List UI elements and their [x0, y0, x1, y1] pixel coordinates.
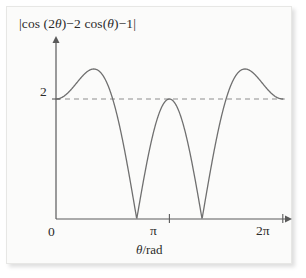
x-axis-label: θ/rad	[136, 243, 163, 256]
x-tick-label-pi: π	[150, 224, 157, 238]
x-tick-label-2pi: 2π	[256, 224, 270, 238]
y-axis-label-theta1: θ	[55, 16, 62, 31]
curve-path	[56, 69, 283, 218]
x-axis-label-unit: /rad	[142, 242, 162, 257]
y-axis-label: |cos (2θ)−2 cos(θ)−1|	[19, 17, 136, 31]
plot-area: |cos (2θ)−2 cos(θ)−1| 2 0 π 2π θ/rad	[0, 0, 306, 278]
y-axis-label-part3: )−1|	[114, 16, 136, 31]
y-axis-label-part2: )−2 cos(	[62, 16, 108, 31]
x-tick-label-0: 0	[48, 225, 55, 239]
figure-root: |cos (2θ)−2 cos(θ)−1| 2 0 π 2π θ/rad	[0, 0, 306, 278]
y-tick-label-2: 2	[40, 85, 47, 99]
y-axis-label-part1: |cos (2	[19, 16, 55, 31]
